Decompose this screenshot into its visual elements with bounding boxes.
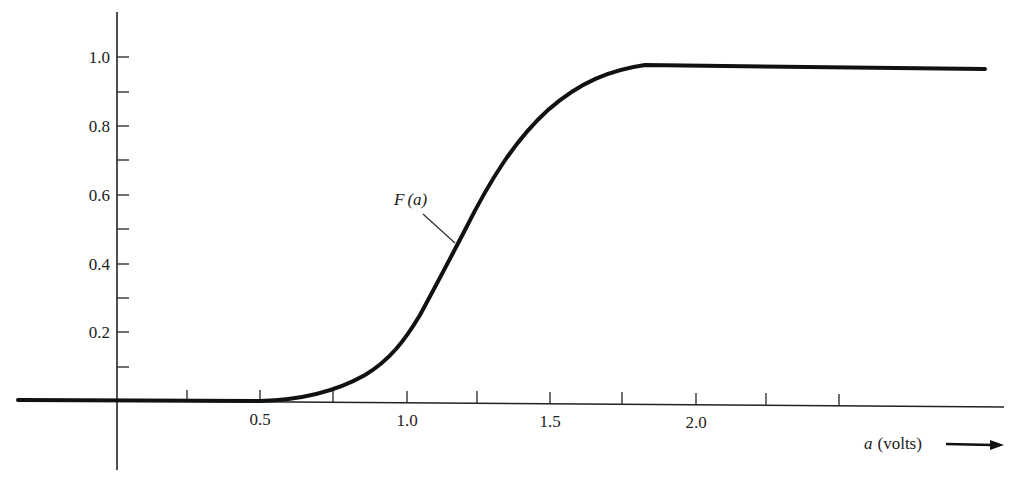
y-tick-label: 0.2 xyxy=(89,323,110,342)
y-tick-label: 0.4 xyxy=(89,255,111,274)
arrow-right-icon xyxy=(946,440,1004,450)
y-ticks xyxy=(117,57,129,367)
y-tick-label: 0.8 xyxy=(89,117,110,136)
annotation-leader-line xyxy=(423,214,455,243)
y-tick-label: 1.0 xyxy=(89,48,110,67)
x-tick-label: 2.0 xyxy=(685,413,706,432)
x-tick-labels: 0.5 1.0 1.5 2.0 xyxy=(249,410,706,432)
x-tick-label: 1.0 xyxy=(396,411,417,430)
x-tick-label: 0.5 xyxy=(249,410,270,429)
x-axis-label: a(volts) xyxy=(864,434,922,453)
chart: 0.2 0.4 0.6 0.8 1.0 0.5 1.0 1.5 2.0 F(a)… xyxy=(0,0,1029,485)
y-tick-labels: 0.2 0.4 0.6 0.8 1.0 xyxy=(89,48,111,342)
curve-label: F(a) xyxy=(393,190,428,209)
y-tick-label: 0.6 xyxy=(89,186,110,205)
curve-F-of-a xyxy=(18,65,985,401)
x-tick-label: 1.5 xyxy=(539,412,560,431)
